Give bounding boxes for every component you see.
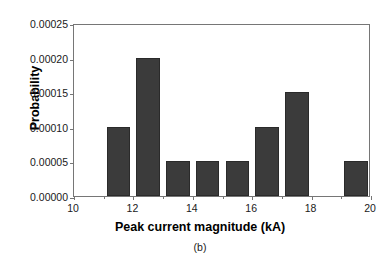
x-tick-mark (133, 196, 134, 200)
bar (107, 127, 131, 196)
x-tick-mark (371, 196, 372, 200)
bar (136, 58, 160, 196)
figure-bar-chart: Probability 0.000000.000050.000100.00015… (0, 0, 382, 262)
y-tick-mark (70, 198, 74, 199)
x-minor-tick-mark (223, 196, 224, 199)
plot-area (73, 24, 370, 197)
x-tick-mark (74, 196, 75, 200)
x-tick-label: 12 (112, 202, 152, 214)
x-axis-title: Peak current magnitude (kA) (40, 220, 360, 234)
bar (166, 161, 190, 196)
bar (285, 92, 309, 196)
x-minor-tick-mark (282, 196, 283, 199)
x-tick-label: 20 (350, 202, 382, 214)
x-tick-label: 14 (172, 202, 212, 214)
x-axis-tick-labels: 101214161820 (73, 202, 370, 218)
y-tick-label: 0.00010 (4, 122, 68, 134)
figure-caption: (b) (40, 241, 360, 253)
x-tick-label: 16 (231, 202, 271, 214)
bar (255, 127, 279, 196)
x-minor-tick-mark (104, 196, 105, 199)
y-tick-label: 0.00005 (4, 156, 68, 168)
y-tick-label: 0.00020 (4, 53, 68, 65)
x-tick-mark (312, 196, 313, 200)
y-tick-label: 0.00025 (4, 18, 68, 30)
bar (196, 161, 220, 196)
y-tick-label: 0.00015 (4, 87, 68, 99)
x-minor-tick-mark (341, 196, 342, 199)
x-tick-label: 18 (291, 202, 331, 214)
bar (344, 161, 368, 196)
x-tick-mark (193, 196, 194, 200)
x-tick-label: 10 (53, 202, 93, 214)
bar-series (74, 25, 369, 196)
bar (226, 161, 250, 196)
x-tick-mark (252, 196, 253, 200)
x-minor-tick-mark (163, 196, 164, 199)
